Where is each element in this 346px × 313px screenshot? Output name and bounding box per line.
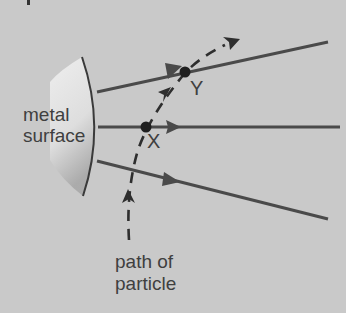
point-x-label: X (147, 131, 160, 152)
surface-label-line1: metal (23, 104, 69, 125)
point-y-label: Y (190, 78, 203, 99)
path-label-line1: path of (115, 251, 173, 272)
path-arrow-top (223, 37, 240, 50)
arrow-head-middle (166, 120, 181, 134)
surface-label-line2: surface (23, 125, 85, 146)
cropped-mark (27, 0, 30, 5)
field-line-top (97, 42, 328, 92)
arrow-head-bottom (162, 172, 180, 186)
path-label-line2: particle (115, 273, 176, 294)
point-y-dot (180, 67, 191, 78)
field-line-bottom (97, 161, 328, 219)
